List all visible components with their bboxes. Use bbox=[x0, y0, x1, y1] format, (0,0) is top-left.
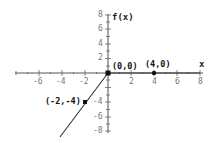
point-label-4-0: (4,0) bbox=[145, 60, 171, 68]
y-tick-label: 8 bbox=[98, 11, 103, 19]
x-tick-label: 6 bbox=[175, 78, 180, 86]
x-tick-label: -6 bbox=[33, 78, 43, 86]
point-4-0 bbox=[152, 71, 156, 75]
point-origin bbox=[106, 71, 111, 76]
y-tick-label: -6 bbox=[93, 113, 103, 121]
point-label-origin: (0,0) bbox=[112, 62, 138, 70]
x-tick-label: 2 bbox=[129, 78, 134, 86]
point-neg2-neg4 bbox=[83, 100, 87, 104]
x-tick-label: -4 bbox=[56, 78, 66, 86]
y-axis-label: f(x) bbox=[112, 13, 134, 21]
plot-area bbox=[0, 0, 214, 143]
y-tick-label: -4 bbox=[93, 98, 103, 106]
y-tick-label: 2 bbox=[98, 54, 103, 62]
x-tick-label: 8 bbox=[198, 78, 203, 86]
y-tick-label: 6 bbox=[98, 25, 103, 33]
x-axis-label: x bbox=[199, 60, 204, 68]
y-tick-label: 4 bbox=[98, 40, 103, 48]
y-tick-label: -8 bbox=[93, 127, 103, 135]
point-label-neg2-neg4: (-2,-4) bbox=[45, 97, 81, 105]
x-tick-label: -2 bbox=[79, 78, 89, 86]
x-tick-label: 4 bbox=[152, 78, 157, 86]
